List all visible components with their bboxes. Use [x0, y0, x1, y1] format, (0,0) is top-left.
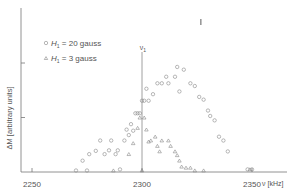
- nu1-label: ν1: [140, 44, 147, 53]
- point-20-gauss: [209, 114, 212, 117]
- point-3-gauss: [178, 159, 182, 162]
- point-3-gauss: [189, 166, 193, 169]
- top-marker: [200, 19, 202, 25]
- point-3-gauss: [167, 139, 171, 142]
- point-3-gauss: [149, 139, 153, 142]
- point-20-gauss: [156, 82, 159, 85]
- point-20-gauss: [160, 82, 163, 85]
- point-20-gauss: [114, 152, 117, 155]
- point-3-gauss: [202, 169, 206, 172]
- point-3-gauss: [153, 135, 157, 138]
- point-20-gauss: [81, 159, 84, 162]
- point-3-gauss: [131, 142, 135, 145]
- data-points: [74, 65, 253, 172]
- point-20-gauss: [88, 152, 91, 155]
- point-20-gauss: [123, 139, 126, 142]
- legend-label-3-gauss: H1 = 3 gauss: [51, 54, 97, 64]
- legend-label-20-gauss: H1 = 20 gauss: [51, 39, 101, 49]
- point-20-gauss: [103, 152, 106, 155]
- point-20-gauss: [213, 119, 216, 122]
- point-3-gauss: [158, 150, 162, 153]
- point-20-gauss: [176, 65, 179, 68]
- point-20-gauss: [222, 139, 225, 142]
- point-3-gauss: [173, 150, 177, 153]
- point-20-gauss: [118, 168, 121, 171]
- chart: 225023002350 ν1 ΔM [arbitrary units] ν […: [0, 0, 297, 194]
- point-3-gauss: [180, 165, 184, 168]
- point-20-gauss: [226, 150, 229, 153]
- x-axis-label: ν [kHz]: [262, 180, 283, 188]
- point-20-gauss: [217, 135, 220, 138]
- legend-triangle-icon: [44, 57, 47, 60]
- point-20-gauss: [189, 82, 192, 85]
- point-3-gauss: [136, 126, 140, 129]
- point-20-gauss: [94, 149, 97, 152]
- x-tick-label: 2300: [133, 180, 151, 189]
- point-20-gauss: [173, 75, 176, 78]
- point-20-gauss: [151, 93, 154, 96]
- y-axis-label: ΔM [arbitrary units]: [5, 87, 14, 150]
- point-3-gauss: [160, 139, 164, 142]
- point-20-gauss: [138, 112, 141, 115]
- point-20-gauss: [147, 99, 150, 102]
- point-20-gauss: [116, 149, 119, 152]
- point-20-gauss: [202, 98, 205, 101]
- x-tick-label: 2250: [23, 180, 41, 189]
- y-ticks: [21, 63, 25, 118]
- point-20-gauss: [145, 87, 148, 90]
- point-20-gauss: [143, 99, 146, 102]
- point-3-gauss: [145, 128, 149, 131]
- point-20-gauss: [206, 109, 209, 112]
- point-20-gauss: [129, 122, 132, 125]
- point-20-gauss: [193, 84, 196, 87]
- point-20-gauss: [167, 82, 170, 85]
- legend: H1 = 20 gauss H1 = 3 gauss: [44, 39, 101, 64]
- point-20-gauss: [182, 68, 185, 71]
- point-3-gauss: [138, 116, 142, 119]
- point-20-gauss: [125, 128, 128, 131]
- x-tick-label: 2350: [243, 180, 261, 189]
- point-20-gauss: [165, 75, 168, 78]
- point-20-gauss: [178, 90, 181, 93]
- point-20-gauss: [127, 133, 130, 136]
- point-3-gauss: [127, 153, 131, 156]
- point-3-gauss: [184, 166, 188, 169]
- point-3-gauss: [156, 144, 160, 147]
- point-20-gauss: [132, 129, 135, 132]
- point-3-gauss: [142, 116, 146, 119]
- point-20-gauss: [198, 95, 201, 98]
- point-20-gauss: [107, 149, 110, 152]
- point-3-gauss: [175, 154, 179, 157]
- point-3-gauss: [112, 169, 116, 172]
- point-3-gauss: [169, 144, 173, 147]
- point-20-gauss: [110, 139, 113, 142]
- point-20-gauss: [99, 139, 102, 142]
- point-3-gauss: [193, 169, 197, 172]
- legend-circle-icon: [44, 41, 47, 44]
